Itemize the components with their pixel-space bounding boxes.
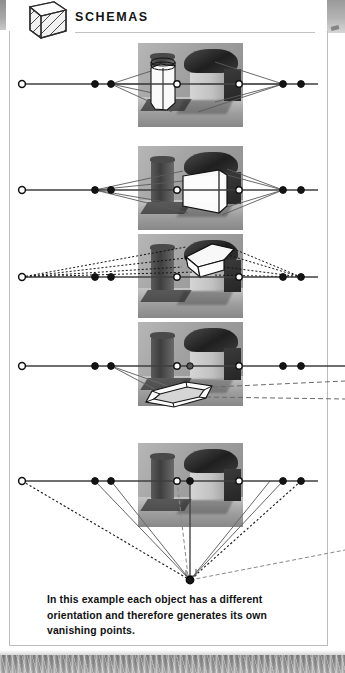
vanishing-point-solid xyxy=(298,363,305,370)
vanishing-point-open xyxy=(236,478,242,484)
vanishing-point-solid xyxy=(298,478,305,485)
vanishing-point-open xyxy=(19,274,26,281)
perspective-overlay-2 xyxy=(0,143,345,243)
vanishing-point-solid xyxy=(108,81,115,88)
scan-edge-bottom xyxy=(0,655,345,673)
vanishing-point-solid xyxy=(187,363,193,369)
page-header: SCHEMAS xyxy=(0,0,345,40)
schema-panel-3-wedge xyxy=(0,231,345,331)
vanishing-point-solid xyxy=(108,187,115,194)
header-divider xyxy=(75,32,315,33)
vanishing-point-solid xyxy=(298,274,305,281)
vanishing-point-open xyxy=(174,478,180,484)
vanishing-point-solid xyxy=(92,274,99,281)
vanishing-point-solid xyxy=(108,478,115,485)
schemas-page: SCHEMAS xyxy=(0,0,345,673)
schema-panel-2-box xyxy=(0,143,345,243)
vanishing-point-solid xyxy=(280,478,287,485)
vanishing-point-solid xyxy=(92,363,99,370)
vanishing-point-solid xyxy=(187,478,194,485)
hatched-cube-icon xyxy=(24,1,70,39)
vanishing-point-solid xyxy=(92,81,99,88)
station-point xyxy=(186,576,194,584)
schema-panel-5-summary xyxy=(0,438,345,593)
vanishing-point-open xyxy=(236,274,242,280)
vanishing-point-open xyxy=(236,81,242,87)
vanishing-point-solid xyxy=(280,363,287,370)
vanishing-point-solid xyxy=(92,478,99,485)
vanishing-point-open xyxy=(174,363,180,369)
perspective-overlay-4 xyxy=(0,319,345,424)
vanishing-point-solid xyxy=(108,274,115,281)
vanishing-point-open xyxy=(174,274,180,280)
schema-panel-1-jar xyxy=(0,40,345,140)
perspective-overlay-1 xyxy=(0,40,345,140)
vanishing-point-solid xyxy=(108,363,115,370)
vanishing-point-solid xyxy=(298,81,305,88)
vanishing-point-solid xyxy=(298,187,305,194)
page-title: SCHEMAS xyxy=(75,10,149,24)
vanishing-point-open xyxy=(236,363,242,369)
vanishing-point-open xyxy=(19,187,26,194)
vanishing-point-open xyxy=(19,81,26,88)
perspective-overlay-5 xyxy=(0,438,345,593)
vanishing-point-open xyxy=(19,478,26,485)
page-border-bottom xyxy=(9,645,328,646)
figure-caption: In this example each object has a differ… xyxy=(47,592,297,639)
perspective-overlay-3 xyxy=(0,231,345,331)
vanishing-point-solid xyxy=(280,81,287,88)
vanishing-point-open xyxy=(174,81,180,87)
vanishing-point-open xyxy=(19,363,26,370)
vanishing-point-open xyxy=(236,187,242,193)
schema-panel-4-tray xyxy=(0,319,345,424)
vanishing-point-solid xyxy=(92,187,99,194)
vanishing-point-solid xyxy=(280,274,287,281)
vanishing-point-open xyxy=(174,187,180,193)
vanishing-point-solid xyxy=(280,187,287,194)
